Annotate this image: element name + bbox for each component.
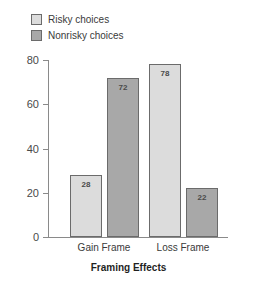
x-category-label-gain-frame: Gain Frame	[78, 242, 131, 253]
y-tick-label-0: 0	[33, 231, 39, 243]
y-tick-label-60: 60	[27, 98, 39, 110]
legend-swatch-icon-risky	[31, 14, 42, 25]
bar-value-label: 22	[198, 194, 207, 236]
chart-legend: Risky choices Nonrisky choices	[31, 13, 124, 42]
bar-chart-figure: Risky choices Nonrisky choices 80 60 40 …	[0, 0, 257, 282]
bar-group-container: 28 72 78 22	[48, 60, 228, 237]
bar-gain-frame-nonrisky: 72	[107, 78, 139, 237]
x-axis-title: Framing Effects	[0, 262, 257, 273]
bar-value-label: 72	[119, 84, 128, 236]
bar-value-label: 78	[161, 70, 170, 236]
bar-loss-frame-risky: 78	[149, 64, 181, 237]
y-tick-label-40: 40	[27, 143, 39, 155]
bar-value-label: 28	[82, 181, 91, 236]
y-tick-0: 0	[43, 237, 48, 238]
legend-item-risky-choices: Risky choices	[31, 13, 124, 26]
legend-item-nonrisky-choices: Nonrisky choices	[31, 29, 124, 42]
legend-label-nonrisky: Nonrisky choices	[48, 30, 124, 41]
y-tick-label-80: 80	[27, 54, 39, 66]
x-axis-line	[48, 237, 228, 238]
plot-area: 80 60 40 20 0 28 72 78 22	[48, 60, 228, 237]
legend-swatch-icon-nonrisky	[31, 30, 42, 41]
bar-gain-frame-risky: 28	[70, 175, 102, 237]
x-category-label-loss-frame: Loss Frame	[157, 242, 210, 253]
y-tick-label-20: 20	[27, 187, 39, 199]
legend-label-risky: Risky choices	[48, 14, 109, 25]
bar-loss-frame-nonrisky: 22	[186, 188, 218, 237]
